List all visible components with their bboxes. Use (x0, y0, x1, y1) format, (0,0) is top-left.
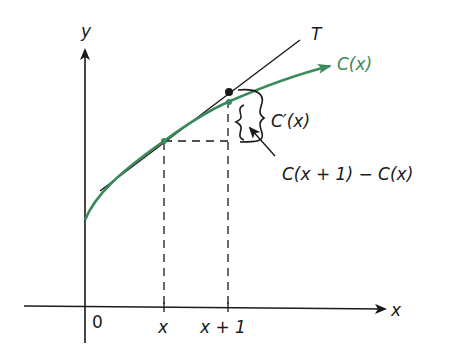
tangent-label: T (311, 24, 323, 44)
x-axis-label: x (390, 300, 402, 320)
derivative-brace (238, 90, 264, 142)
derivative-label: C′(x) (271, 111, 310, 131)
diagram-canvas: y x 0 x x + 1 T C(x) C′(x) C(x + 1) − C(… (0, 0, 460, 361)
point-at-x (161, 138, 167, 144)
x-axis (24, 306, 385, 309)
tangent-point-x-plus-1 (225, 88, 233, 96)
origin-label: 0 (92, 312, 103, 332)
tick-label-x: x (157, 317, 169, 337)
curve-point-x-plus-1 (226, 99, 232, 105)
difference-label: C(x + 1) − C(x) (282, 164, 413, 184)
y-axis-label: y (80, 21, 92, 41)
curve-label: C(x) (337, 54, 372, 74)
cost-curve (85, 66, 330, 220)
difference-brace (236, 105, 244, 140)
tick-label-x-plus-1: x + 1 (199, 317, 246, 337)
